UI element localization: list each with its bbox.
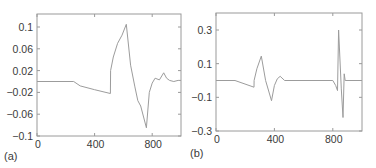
panel-label: (b) (190, 147, 203, 159)
y-tick-label: 0.02 (13, 65, 34, 77)
x-tick-label: 400 (267, 133, 285, 145)
y-tick-label: 0.3 (197, 24, 212, 36)
panel-label: (a) (4, 150, 17, 162)
plot-frame (37, 14, 181, 136)
data-line (216, 30, 362, 118)
y-tick-label: 0.1 (197, 58, 212, 70)
x-tick-label: 400 (87, 138, 105, 150)
x-tick-label: 800 (325, 133, 343, 145)
x-tick-label: 0 (35, 138, 41, 150)
y-tick-label: −0.02 (6, 86, 33, 98)
x-tick-label: 0 (214, 133, 220, 145)
y-tick-label: −0.06 (6, 108, 33, 120)
figure: 0.10.060.02−0.02−0.06−0.10400800(a) 0.30… (0, 0, 376, 168)
x-tick-label: 800 (144, 138, 162, 150)
chart-panel-b: 0.30.1−0.1−0.30400800(b) (190, 13, 362, 159)
chart-panel-a: 0.10.060.02−0.02−0.06−0.10400800(a) (4, 14, 181, 162)
data-line (37, 24, 181, 128)
y-tick-label: 0.06 (13, 43, 34, 55)
y-tick-label: 0.1 (18, 21, 33, 33)
y-tick-label: −0.1 (191, 91, 212, 103)
y-tick-label: −0.3 (191, 125, 212, 137)
y-tick-label: −0.1 (12, 130, 33, 142)
